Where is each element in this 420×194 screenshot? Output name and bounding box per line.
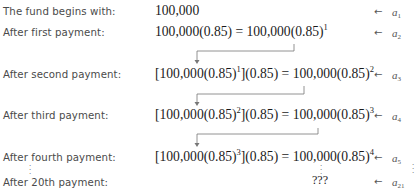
exponent: 1 bbox=[324, 22, 328, 32]
ellipsis-right: ··· bbox=[412, 163, 414, 175]
left-arrow-icon: ← bbox=[374, 110, 382, 121]
equation-a2: 100,000(0.85) = 100,000(0.85)1 bbox=[155, 24, 328, 40]
equation-a3: [100,000(0.85)1](0.85) = 100,000(0.85)2 bbox=[155, 66, 374, 82]
row-label-start: The fund begins with: bbox=[3, 6, 116, 17]
left-arrow-icon: ← bbox=[374, 176, 382, 187]
equation-a21-unknown: ??? bbox=[312, 173, 328, 188]
term-label-a2: a2 bbox=[392, 27, 401, 39]
left-arrow-icon: ← bbox=[374, 6, 382, 17]
term-label-a4: a4 bbox=[392, 110, 401, 122]
ellipsis-left: ··· bbox=[29, 164, 31, 176]
row-label-fourth-payment: After fourth payment: bbox=[3, 152, 116, 163]
row-label-third-payment: After third payment: bbox=[3, 110, 109, 121]
expr-text: 100,000 bbox=[155, 3, 199, 18]
term-label-a21: a21 bbox=[392, 176, 405, 188]
left-arrow-icon: ← bbox=[374, 69, 382, 80]
equation-a1: 100,000 bbox=[155, 3, 199, 19]
left-arrow-icon: ← bbox=[374, 27, 382, 38]
term-label-a1: a1 bbox=[392, 6, 401, 18]
expr-text: 100,000(0.85) = 100,000(0.85) bbox=[155, 24, 324, 39]
row-label-20th-payment: After 20th payment: bbox=[3, 177, 108, 188]
equation-a4: [100,000(0.85)2](0.85) = 100,000(0.85)3 bbox=[155, 107, 374, 123]
term-label-a5: a5 bbox=[392, 152, 401, 164]
row-label-second-payment: After second payment: bbox=[3, 69, 121, 80]
row-label-first-payment: After first payment: bbox=[3, 27, 105, 38]
term-label-a3: a3 bbox=[392, 69, 401, 81]
left-arrow-icon: ← bbox=[374, 152, 382, 163]
equation-a5: [100,000(0.85)3](0.85) = 100,000(0.85)4 bbox=[155, 149, 374, 165]
